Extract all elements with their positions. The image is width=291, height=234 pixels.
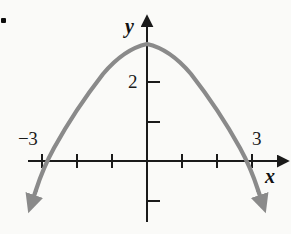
x-tick-label-pos3: 3 xyxy=(252,129,261,148)
graph-figure: y x 2 −3 3 xyxy=(0,0,291,234)
y-axis-label: y xyxy=(125,16,134,36)
x-tick-label-neg3: −3 xyxy=(18,129,37,148)
parabola-right-arrow xyxy=(258,190,261,199)
y-tick-label-2: 2 xyxy=(128,72,137,91)
coordinate-plane-svg xyxy=(0,0,291,234)
x-axis-label: x xyxy=(265,166,275,186)
y-axis-ticks xyxy=(147,82,160,201)
parabola-left-arrow xyxy=(33,190,36,199)
